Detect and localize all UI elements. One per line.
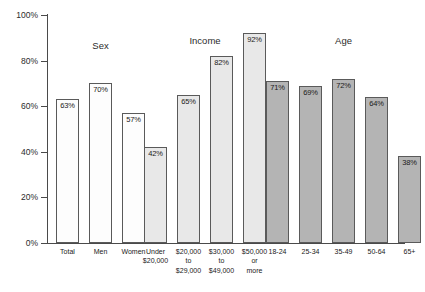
bar: 69% bbox=[299, 86, 322, 243]
bar-value-label: 65% bbox=[178, 98, 199, 106]
bar-value-label: 82% bbox=[211, 59, 232, 67]
y-tick-label: 20% bbox=[0, 193, 38, 202]
x-axis-line bbox=[47, 243, 405, 244]
y-tick-0 bbox=[41, 243, 47, 244]
bar-value-label: 42% bbox=[145, 150, 166, 158]
bar-value-label: 64% bbox=[366, 100, 387, 108]
group-title-sex: Sex bbox=[61, 41, 141, 51]
bar-value-label: 63% bbox=[57, 102, 78, 110]
bar-value-label: 72% bbox=[333, 82, 354, 90]
x-axis-labels: TotalMenWomenUnder $20,000$20,000 to $29… bbox=[47, 247, 405, 291]
bar: 63% bbox=[56, 99, 79, 243]
bar-value-label: 69% bbox=[300, 89, 321, 97]
y-tick-label: 0% bbox=[0, 239, 38, 248]
bar-value-label: 57% bbox=[123, 116, 144, 124]
bar-value-label: 92% bbox=[244, 36, 265, 44]
y-tick-label: 40% bbox=[0, 148, 38, 157]
group-title-income: Income bbox=[165, 36, 245, 46]
bar-value-label: 70% bbox=[90, 86, 111, 94]
bar: 64% bbox=[365, 97, 388, 243]
y-tick-label: 80% bbox=[0, 57, 38, 66]
y-tick-label: 60% bbox=[0, 102, 38, 111]
bar: 71% bbox=[266, 81, 289, 243]
bar: 92% bbox=[243, 33, 266, 243]
bar: 65% bbox=[177, 95, 200, 243]
bar: 70% bbox=[89, 83, 112, 243]
bar-value-label: 71% bbox=[267, 84, 288, 92]
bar: 38% bbox=[398, 156, 421, 243]
group-title-age: Age bbox=[304, 36, 384, 46]
bar-value-label: 38% bbox=[399, 159, 420, 167]
x-tick-label: 65+ bbox=[389, 247, 425, 256]
y-tick-label: 100% bbox=[0, 11, 38, 20]
bar: 82% bbox=[210, 56, 233, 243]
bar: 57% bbox=[122, 113, 145, 243]
bar: 42% bbox=[144, 147, 167, 243]
bar: 72% bbox=[332, 79, 355, 243]
